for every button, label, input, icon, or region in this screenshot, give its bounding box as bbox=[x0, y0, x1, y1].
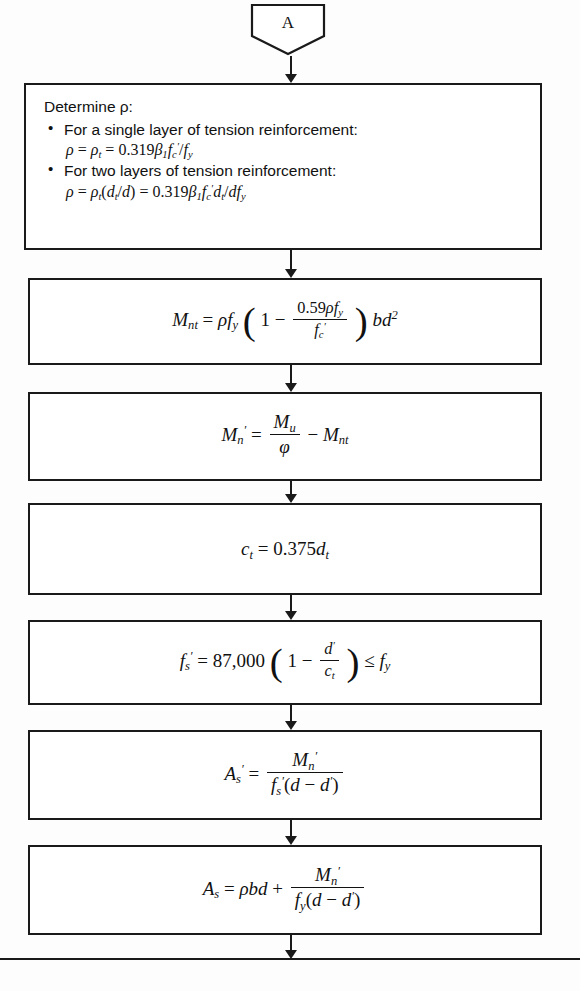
step-as: As = ρbd + Mn′ fy(d − d′) bbox=[28, 845, 542, 935]
fs-prime-equation: fs′ = 87,000 ( 1 − d′ ct ) ≤ fy bbox=[180, 642, 391, 683]
arrow-step5-to-step6 bbox=[285, 705, 297, 730]
connector-a-label: A bbox=[250, 13, 326, 33]
as-equation: As = ρbd + Mn′ fy(d − d′) bbox=[203, 867, 368, 914]
bullet-2-equation: ρ = ρt(dt/d) = 0.319β1fc′dt/dfy bbox=[66, 183, 540, 201]
step-mnt: Mnt = ρfy ( 1 − 0.59ρfy fc′ ) bd2 bbox=[28, 278, 542, 365]
arrow-step6-to-step7 bbox=[285, 820, 297, 845]
determine-rho-bullets: For a single layer of tension reinforcem… bbox=[44, 120, 540, 201]
next-step-box-top-edge bbox=[0, 958, 580, 960]
list-item: For two layers of tension reinforcement:… bbox=[44, 161, 540, 201]
mnt-equation: Mnt = ρfy ( 1 − 0.59ρfy fc′ ) bd2 bbox=[172, 301, 397, 342]
bullet-2-text: For two layers of tension reinforcement: bbox=[64, 161, 540, 181]
arrow-step2-to-step3 bbox=[285, 365, 297, 392]
step-determine-rho: Determine ρ: For a single layer of tensi… bbox=[24, 83, 542, 250]
step-ct: ct = 0.375dt bbox=[28, 503, 542, 595]
determine-rho-lead: Determine ρ: bbox=[44, 97, 540, 118]
arrow-step7-to-next bbox=[285, 935, 297, 960]
ct-equation: ct = 0.375dt bbox=[241, 538, 329, 560]
arrow-step3-to-step4 bbox=[285, 481, 297, 503]
step-fs-prime: fs′ = 87,000 ( 1 − d′ ct ) ≤ fy bbox=[28, 620, 542, 705]
flowchart-page: A Determine ρ: For a single layer of ten… bbox=[0, 0, 580, 991]
step-mn-prime: Mn′ = Mu φ − Mnt bbox=[28, 392, 542, 481]
bullet-1-text: For a single layer of tension reinforcem… bbox=[64, 120, 540, 140]
list-item: For a single layer of tension reinforcem… bbox=[44, 120, 540, 160]
arrow-connector-to-step1 bbox=[285, 56, 297, 83]
arrow-step1-to-step2 bbox=[285, 250, 297, 278]
connector-a: A bbox=[250, 3, 326, 56]
mn-prime-equation: Mn′ = Mu φ − Mnt bbox=[222, 413, 349, 460]
step-as-prime: As′ = Mn′ fs′(d − d′) bbox=[28, 730, 542, 820]
as-prime-equation: As′ = Mn′ fs′(d − d′) bbox=[224, 752, 345, 799]
bullet-1-equation: ρ = ρt = 0.319β1fc′/fy bbox=[66, 141, 540, 159]
arrow-step4-to-step5 bbox=[285, 595, 297, 620]
